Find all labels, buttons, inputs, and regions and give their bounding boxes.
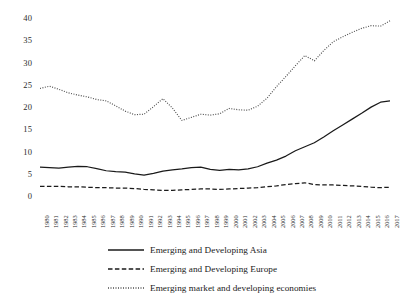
series-layer <box>40 21 390 191</box>
x-tick-label: 1994 <box>175 215 182 228</box>
x-tick-label: 1986 <box>99 215 106 228</box>
legend-line-swatch-icon <box>108 245 144 255</box>
x-tick-label: 1981 <box>52 215 59 228</box>
x-tick-label: 2007 <box>298 215 305 228</box>
series-line-2 <box>40 21 390 121</box>
legend-line-swatch-icon <box>108 283 144 293</box>
y-tick-label: 0 <box>10 192 32 201</box>
legend-item-2[interactable]: Emerging market and developing economies <box>108 278 393 297</box>
x-tick-label: 1996 <box>194 215 201 228</box>
x-tick-label: 1992 <box>156 215 163 228</box>
x-tick-label: 2008 <box>307 215 314 228</box>
legend-item-1[interactable]: Emerging and Developing Europe <box>108 259 393 278</box>
x-tick-label: 1991 <box>147 215 154 228</box>
x-tick-label: 2001 <box>241 215 248 228</box>
x-tick-label: 2004 <box>270 215 277 228</box>
x-tick-label: 1990 <box>137 215 144 228</box>
y-tick-label: 35 <box>10 36 32 45</box>
x-tick-label: 1980 <box>43 215 50 228</box>
x-tick-label: 1983 <box>71 215 78 228</box>
legend-label: Emerging and Developing Asia <box>150 245 267 255</box>
x-tick-label: 1987 <box>109 215 116 228</box>
x-tick-label: 2003 <box>260 215 267 228</box>
legend-label: Emerging and Developing Europe <box>150 264 277 274</box>
x-tick-label: 2013 <box>355 215 362 228</box>
legend-label: Emerging market and developing economies <box>150 283 316 293</box>
legend-line-swatch-icon <box>108 264 144 274</box>
x-tick-label: 1988 <box>118 215 125 228</box>
y-tick-label: 15 <box>10 125 32 134</box>
x-tick-label: 1999 <box>222 215 229 228</box>
x-tick-label: 2006 <box>289 215 296 228</box>
x-tick-label: 1989 <box>128 215 135 228</box>
series-line-1 <box>40 183 390 191</box>
y-tick-label: 30 <box>10 59 32 68</box>
x-tick-label: 2000 <box>232 215 239 228</box>
y-tick-label: 25 <box>10 81 32 90</box>
x-tick-label: 1982 <box>62 215 69 228</box>
x-tick-label: 2012 <box>345 215 352 228</box>
y-tick-label: 40 <box>10 14 32 23</box>
x-tick-label: 1997 <box>203 215 210 228</box>
x-tick-label: 2002 <box>251 215 258 228</box>
legend-item-0[interactable]: Emerging and Developing Asia <box>108 240 393 259</box>
x-tick-label: 2017 <box>393 215 400 228</box>
x-tick-label: 2010 <box>326 215 333 228</box>
x-tick-label: 2016 <box>383 215 390 228</box>
x-tick-label: 1998 <box>213 215 220 228</box>
x-tick-label: 1995 <box>184 215 191 228</box>
x-tick-label: 2009 <box>317 215 324 228</box>
chart-legend: Emerging and Developing AsiaEmerging and… <box>108 240 393 297</box>
x-tick-label: 2005 <box>279 215 286 228</box>
x-tick-label: 1985 <box>90 215 97 228</box>
x-tick-label: 2015 <box>374 215 381 228</box>
x-tick-label: 2011 <box>336 216 343 228</box>
y-tick-label: 5 <box>10 170 32 179</box>
x-tick-label: 2014 <box>364 215 371 228</box>
series-line-0 <box>40 101 390 175</box>
y-tick-label: 10 <box>10 148 32 157</box>
x-tick-label: 1984 <box>80 215 87 228</box>
x-tick-label: 1993 <box>166 215 173 228</box>
y-tick-label: 20 <box>10 103 32 112</box>
